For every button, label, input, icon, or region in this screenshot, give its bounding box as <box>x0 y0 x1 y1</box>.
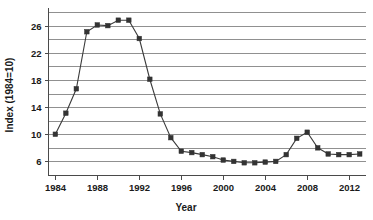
data-point-marker <box>347 152 352 157</box>
x-tick-label: 2008 <box>297 182 318 193</box>
data-point-marker <box>53 132 58 137</box>
data-point-marker <box>148 77 153 82</box>
data-point-marker <box>189 150 194 155</box>
data-point-marker <box>179 149 184 154</box>
data-point-marker <box>315 146 320 151</box>
data-point-marker <box>127 18 132 23</box>
x-tick-label: 2000 <box>213 182 234 193</box>
data-point-marker <box>336 152 341 157</box>
chart-container: 19841988199219962000200420082012 6101418… <box>0 0 373 220</box>
x-tick-label: 1992 <box>129 182 150 193</box>
data-point-marker <box>357 152 362 157</box>
gridlines <box>48 13 366 176</box>
data-point-marker <box>263 160 268 165</box>
x-tick-label: 1996 <box>171 182 192 193</box>
x-tick-label: 2012 <box>339 182 360 193</box>
data-point-marker <box>168 135 173 140</box>
data-point-marker <box>284 152 289 157</box>
data-point-marker <box>106 23 111 28</box>
data-point-marker <box>252 160 257 165</box>
x-tick-marks <box>56 176 350 180</box>
x-tick-label: 1988 <box>87 182 108 193</box>
data-point-marker <box>116 18 121 23</box>
y-axis-title: Index (1984=10) <box>4 58 15 133</box>
x-tick-label: 1984 <box>45 182 67 193</box>
data-point-marker <box>231 159 236 164</box>
y-tick-label: 14 <box>31 102 42 113</box>
data-point-marker <box>273 159 278 164</box>
line-chart: 19841988199219962000200420082012 6101418… <box>0 0 373 220</box>
y-tick-label: 6 <box>36 156 41 167</box>
data-point-marker <box>85 29 90 34</box>
data-point-marker <box>210 154 215 159</box>
y-axis-tick-labels: 61014182226 <box>31 21 42 167</box>
data-point-marker <box>305 130 310 135</box>
x-axis-tick-labels: 19841988199219962000200420082012 <box>45 182 360 193</box>
data-point-marker <box>200 152 205 157</box>
x-tick-label: 2004 <box>255 182 277 193</box>
data-point-marker <box>95 23 100 28</box>
y-tick-label: 18 <box>31 75 42 86</box>
data-point-marker <box>137 36 142 41</box>
y-tick-label: 10 <box>31 129 42 140</box>
y-tick-label: 22 <box>31 48 42 59</box>
series-line-index <box>55 20 359 163</box>
data-point-marker <box>221 158 226 163</box>
data-point-marker <box>326 152 331 157</box>
data-point-marker <box>294 136 299 141</box>
y-tick-label: 26 <box>31 21 42 32</box>
data-point-marker <box>74 86 79 91</box>
data-point-marker <box>64 111 69 116</box>
data-series <box>55 20 359 163</box>
data-point-marker <box>242 160 247 165</box>
x-axis-title: Year <box>175 202 196 213</box>
data-point-marker <box>158 112 163 117</box>
